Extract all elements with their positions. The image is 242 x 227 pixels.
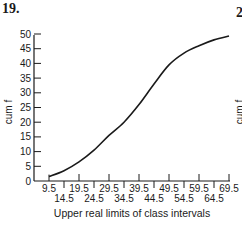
x-tick-label: 44.5 (144, 193, 164, 204)
y-tick-label: 15 (20, 131, 32, 142)
y-tick-label: 20 (20, 117, 32, 128)
y-tick-label: 50 (20, 29, 32, 40)
y-axis-ticks: 05101520253035404550 (20, 29, 41, 187)
y-tick-label: 35 (20, 73, 32, 84)
x-tick-label: 64.5 (204, 193, 224, 204)
x-axis-title: Upper real limits of class intervals (54, 207, 210, 219)
ogive-curve (49, 36, 229, 177)
y-axis-label: cum f (3, 100, 14, 125)
y-tick-label: 10 (20, 146, 32, 157)
y-tick-label: 40 (20, 58, 32, 69)
next-figure-y-axis-label-partial: cum f (234, 100, 242, 125)
x-axis-ticks: 9.519.529.539.549.559.569.514.524.534.54… (42, 174, 239, 204)
y-tick-label: 25 (20, 102, 32, 113)
y-tick-label: 5 (25, 161, 31, 172)
y-tick-label: 45 (20, 43, 32, 54)
x-tick-label: 24.5 (84, 193, 104, 204)
y-tick-label: 0 (25, 176, 31, 187)
y-tick-label: 30 (20, 87, 32, 98)
x-tick-label: 34.5 (114, 193, 134, 204)
cumulative-frequency-chart: cum f cum f 05101520253035404550 9.519.5… (0, 0, 242, 227)
x-tick-label: 14.5 (54, 193, 74, 204)
x-tick-label: 54.5 (174, 193, 194, 204)
